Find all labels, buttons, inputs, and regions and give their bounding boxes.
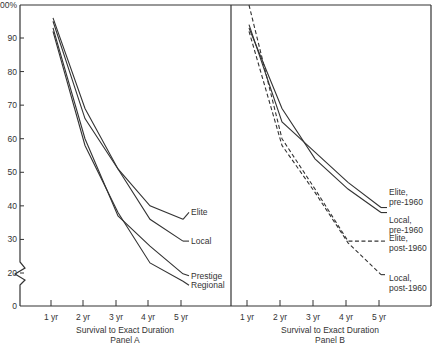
survival-chart: 02030405060708090100% 1 yr2 yr3 yr4 yr5 … xyxy=(0,0,434,354)
series-label-line: Local, xyxy=(389,273,412,283)
y-tick-label: 20 xyxy=(8,268,18,278)
series-line-regional xyxy=(53,31,183,281)
y-tick-label: 0 xyxy=(12,301,17,311)
label-leader xyxy=(183,212,189,219)
series-label-line: Elite, xyxy=(389,233,408,243)
x-tick-label: 1 yr xyxy=(44,312,58,322)
series-label-regional: Regional xyxy=(191,280,225,290)
x-tick-label: 5 yr xyxy=(174,312,188,322)
y-tick-label: 90 xyxy=(8,33,18,43)
y-tick-label: 50 xyxy=(8,167,18,177)
x-axis-title: Survival to Exact Duration xyxy=(76,325,174,335)
x-tick-label: 4 yr xyxy=(339,312,353,322)
x-tick-label: 2 yr xyxy=(273,312,287,322)
x-axis-title: Survival to Exact Duration xyxy=(281,325,379,335)
y-tick-label: 80 xyxy=(8,67,18,77)
series-line-local-post-1960 xyxy=(249,31,381,274)
panel-subtitle: Panel A xyxy=(110,335,140,345)
label-leader xyxy=(183,281,189,285)
x-tick-label: 1 yr xyxy=(240,312,254,322)
series-line-local xyxy=(53,21,183,241)
panel-b: 1 yr2 yr3 yr4 yr5 yrSurvival to Exact Du… xyxy=(240,5,427,345)
chart-frame xyxy=(15,5,431,306)
series-label-elite: Elite xyxy=(191,207,208,217)
series-label-line: Local, xyxy=(389,215,412,225)
x-tick-label: 3 yr xyxy=(109,312,123,322)
series-label-line: pre-1960 xyxy=(389,197,423,207)
x-tick-label: 5 yr xyxy=(372,312,386,322)
series-line-elite xyxy=(53,18,183,219)
x-tick-label: 3 yr xyxy=(306,312,320,322)
series-label-local-pre-1960: Local,pre-1960 xyxy=(389,215,423,235)
series-label-local: Local xyxy=(191,236,211,246)
series-label-elite-pre-1960: Elite,pre-1960 xyxy=(389,187,423,207)
y-tick-label: 100% xyxy=(0,0,17,10)
panel-a: 1 yr2 yr3 yr4 yr5 yrSurvival to Exact Du… xyxy=(44,18,225,345)
y-tick-label: 30 xyxy=(8,234,18,244)
label-leader xyxy=(183,274,189,276)
series-line-local-pre-1960 xyxy=(249,28,381,213)
y-tick-label: 60 xyxy=(8,134,18,144)
y-axis-break xyxy=(15,258,25,306)
series-label-line: post-1960 xyxy=(389,283,427,293)
series-line-elite-post-1960 xyxy=(249,5,381,241)
series-line-elite-pre-1960 xyxy=(249,25,381,208)
series-label-line: post-1960 xyxy=(389,243,427,253)
y-tick-label: 40 xyxy=(8,201,18,211)
series-line-prestige xyxy=(53,28,183,274)
panel-subtitle: Panel B xyxy=(315,335,345,345)
x-tick-label: 4 yr xyxy=(141,312,155,322)
series-label-elite-post-1960: Elite,post-1960 xyxy=(389,233,427,253)
series-label-local-post-1960: Local,post-1960 xyxy=(389,273,427,293)
series-label-line: Elite, xyxy=(389,187,408,197)
x-tick-label: 2 yr xyxy=(76,312,90,322)
y-tick-label: 70 xyxy=(8,100,18,110)
